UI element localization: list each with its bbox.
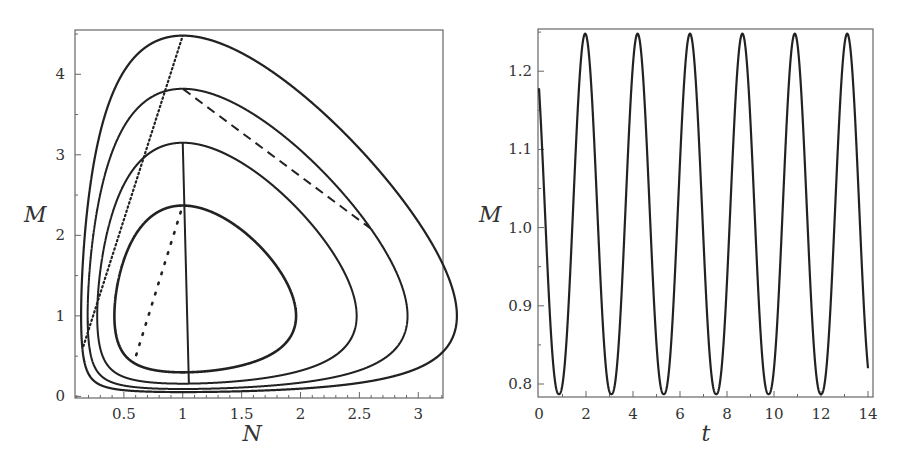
right-x-tick-label: 14 [858, 405, 877, 423]
left-x-tick-label: 3 [413, 405, 423, 423]
right-x-tick-label: 6 [675, 405, 685, 423]
left-y-tick-label: 3 [55, 146, 65, 164]
phase-portrait-plot: 0.511.522.5301234 M N [23, 30, 457, 446]
left-x-axis-label: N [241, 421, 262, 446]
orbit-outer-curve [81, 36, 457, 392]
left-orbits [81, 36, 457, 392]
left-y-tick-label: 4 [55, 65, 65, 83]
right-y-tick-label: 0.8 [508, 375, 532, 393]
left-x-tick-label: 2.5 [347, 405, 371, 423]
left-x-tick-label: 1 [178, 405, 188, 423]
right-x-tick-label: 4 [628, 405, 638, 423]
right-y-axis-label: M [478, 202, 502, 227]
right-x-tick-label: 12 [811, 405, 830, 423]
left-y-axis-label: M [23, 202, 47, 227]
left-plot-frame [75, 30, 443, 398]
right-y-tick-label: 1.1 [508, 140, 532, 158]
right-x-axis-label: t [702, 421, 711, 446]
time-series-plot: 024681012140.80.91.01.11.2 M t [478, 29, 878, 446]
right-y-tick-label: 1.0 [508, 219, 532, 237]
orbit-dashed-curve [88, 89, 408, 389]
right-axis-ticks: 024681012140.80.91.01.11.2 [508, 32, 877, 423]
right-x-tick-label: 8 [722, 405, 732, 423]
left-y-tick-label: 1 [55, 307, 65, 325]
right-y-tick-label: 1.2 [508, 62, 532, 80]
right-plot-frame [538, 29, 873, 397]
m-of-t-curve [539, 34, 868, 394]
left-x-tick-label: 2 [296, 405, 306, 423]
left-y-tick-label: 2 [55, 226, 65, 244]
left-y-tick-label: 0 [55, 387, 65, 405]
right-series [539, 34, 868, 394]
orbit-inner-curve [114, 206, 296, 373]
right-y-tick-label: 0.9 [508, 297, 532, 315]
figure: 0.511.522.5301234 M N 024681012140.80.91… [0, 0, 901, 468]
right-x-tick-label: 10 [764, 405, 783, 423]
left-x-tick-label: 0.5 [112, 405, 136, 423]
right-x-tick-label: 2 [581, 405, 591, 423]
right-x-tick-label: 0 [534, 405, 544, 423]
